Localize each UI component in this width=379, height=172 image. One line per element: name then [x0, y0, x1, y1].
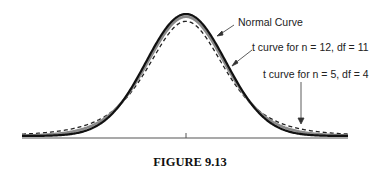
arrowhead-t11 — [232, 60, 238, 66]
arrowhead-normal — [217, 31, 223, 36]
figure-canvas: Normal Curve t curve for n = 12, df = 11… — [0, 0, 379, 172]
label-t-curve-df11: t curve for n = 12, df = 11 — [252, 41, 369, 53]
arrowhead-t4 — [298, 118, 304, 124]
figure-caption: FIGURE 9.13 — [153, 155, 227, 169]
label-normal-curve: Normal Curve — [238, 16, 303, 28]
label-t-curve-df4: t curve for n = 5, df = 4 — [263, 68, 369, 80]
